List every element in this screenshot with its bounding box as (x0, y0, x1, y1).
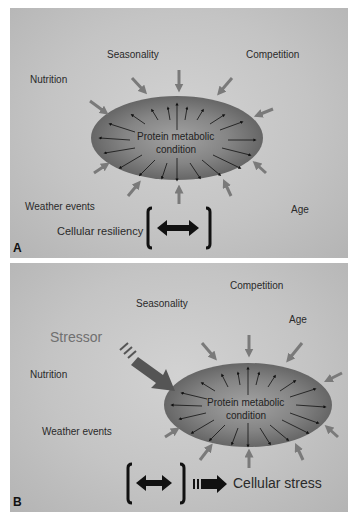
factor-weather-events: Weather events (25, 201, 95, 212)
cellular-stress-arrow-icon (193, 475, 227, 493)
bidirectional-arrow-icon (128, 464, 184, 503)
cellular-stress-label: Cellular stress (233, 475, 322, 491)
panel-b: Competition Seasonality Age Stressor Nut… (10, 263, 348, 512)
ellipse-label-line1: Protein metabolic (207, 397, 284, 408)
panel-letter-b: B (13, 495, 22, 509)
factor-competition: Competition (246, 49, 299, 60)
factor-age: Age (291, 204, 309, 215)
cellular-resiliency-label: Cellular resiliency (57, 225, 143, 237)
factor-age: Age (289, 314, 307, 325)
panel-letter-a: A (13, 241, 22, 255)
stressor-label: Stressor (50, 329, 102, 345)
ellipse-label-line1: Protein metabolic (137, 131, 214, 142)
ellipse-label-line2: condition (156, 144, 196, 155)
factor-competition: Competition (230, 280, 283, 291)
factor-nutrition: Nutrition (30, 74, 67, 85)
factor-weather-events: Weather events (42, 426, 112, 437)
stressor-arrow-icon (120, 343, 175, 391)
bidirectional-arrow-icon (148, 208, 210, 248)
ellipse-label-line2: condition (226, 410, 266, 421)
factor-seasonality: Seasonality (107, 49, 159, 60)
factor-nutrition: Nutrition (30, 369, 67, 380)
panel-a: Seasonality Competition Nutrition Weathe… (10, 8, 348, 258)
factor-seasonality: Seasonality (136, 298, 188, 309)
